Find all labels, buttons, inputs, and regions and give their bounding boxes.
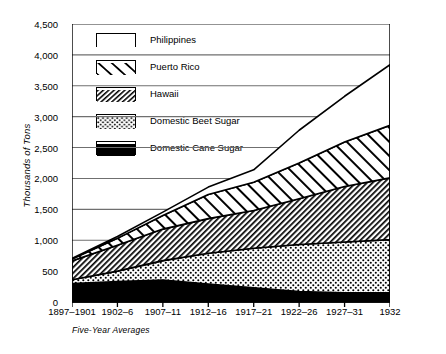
- x-tick-label: 1927–31: [326, 306, 363, 317]
- y-tick-label: 3,500: [34, 80, 58, 91]
- x-axis-tick-labels: 1897–19011902–61907–111912–161917–211922…: [0, 306, 446, 328]
- x-tick-label: 1922–26: [281, 306, 318, 317]
- x-tick-label: 1897–1901: [48, 306, 96, 317]
- y-tick-label: 3,000: [34, 111, 58, 122]
- x-tick-label: 1912–16: [190, 306, 227, 317]
- x-tick-label: 1902–6: [102, 306, 134, 317]
- y-tick-label: 1,000: [34, 235, 58, 246]
- x-tick-label: 1932: [379, 306, 400, 317]
- y-tick-label: 500: [42, 266, 58, 277]
- sugar-supply-area-chart: Thousands of Tons 05001,0001,5002,0002,5…: [0, 0, 446, 354]
- plot-area: [72, 24, 390, 302]
- x-tick-label: 1907–11: [145, 306, 181, 317]
- y-tick-label: 2,000: [34, 173, 58, 184]
- x-axis-title: Five-Year Averages: [72, 325, 150, 335]
- x-tick-label: 1917–21: [235, 306, 272, 317]
- plot-svg: [72, 24, 390, 310]
- stacked-areas: [72, 65, 390, 302]
- y-axis-tick-labels: 05001,0001,5002,0002,5003,0003,5004,0004…: [0, 0, 58, 354]
- y-tick-label: 4,500: [34, 19, 58, 30]
- y-tick-label: 4,000: [34, 49, 58, 60]
- y-tick-label: 1,500: [34, 204, 58, 215]
- y-tick-label: 2,500: [34, 142, 58, 153]
